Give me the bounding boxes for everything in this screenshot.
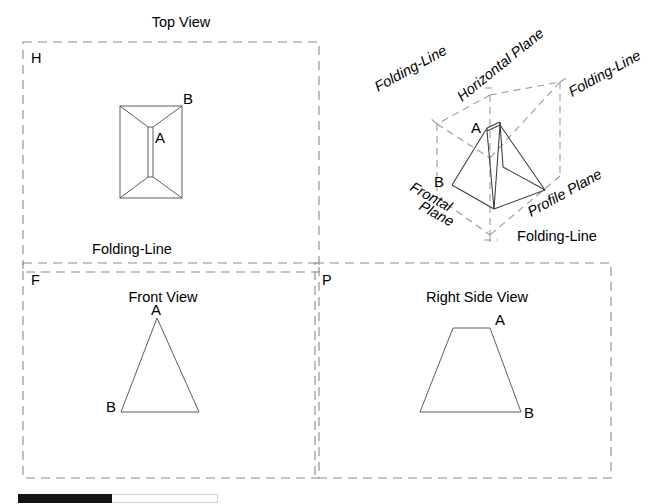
folding-line-label-iso-upper-left: Folding-Line (372, 42, 450, 95)
multiview-projection-sheet: Top View H A B Folding-Line F Front View (0, 0, 661, 504)
bottom-progress-bar[interactable] (18, 492, 218, 504)
folding-line-label-h-f: Folding-Line (92, 241, 172, 257)
front-view-geometry (121, 318, 199, 412)
folding-line-label-iso-bottom: Folding-Line (517, 228, 597, 244)
iso-vertex-a: A (471, 119, 481, 136)
top-view-vertex-a: A (155, 129, 165, 146)
side-view-vertex-a: A (495, 311, 505, 328)
quadrant-letter-f: F (31, 272, 40, 288)
horizontal-plane-label: Horizontal Plane (454, 25, 547, 104)
quadrant-letter-p: P (322, 272, 332, 288)
quadrant-letter-h: H (31, 50, 41, 66)
right-side-view-title: Right Side View (426, 289, 529, 305)
right-side-view-geometry (420, 328, 521, 412)
side-view-vertex-b: B (524, 404, 534, 421)
top-view-title: Top View (152, 14, 211, 30)
technical-drawing-canvas: Top View H A B Folding-Line F Front View (0, 0, 661, 504)
top-view-geometry (120, 106, 182, 198)
top-view-vertex-b: B (183, 90, 193, 107)
isometric-object (452, 122, 545, 209)
front-view-vertex-a: A (151, 301, 161, 318)
front-view-title: Front View (128, 289, 198, 305)
folding-line-label-iso-upper-right: Folding-Line (566, 47, 644, 100)
iso-vertex-b: B (434, 173, 444, 190)
progress-fill (18, 494, 112, 503)
front-view-vertex-b: B (106, 398, 116, 415)
